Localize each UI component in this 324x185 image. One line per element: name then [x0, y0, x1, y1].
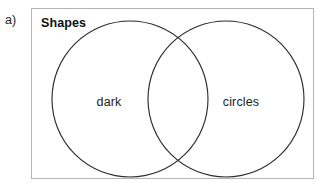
left-region-label: dark: [97, 95, 122, 110]
figure-canvas: a) Shapes dark circles: [0, 0, 324, 185]
right-region-label: circles: [223, 95, 259, 110]
part-label: a): [5, 13, 16, 28]
venn-svg: [31, 8, 314, 179]
diagram-title: Shapes: [41, 16, 86, 30]
venn-diagram: [31, 8, 314, 179]
left-set-circle: [52, 21, 208, 177]
